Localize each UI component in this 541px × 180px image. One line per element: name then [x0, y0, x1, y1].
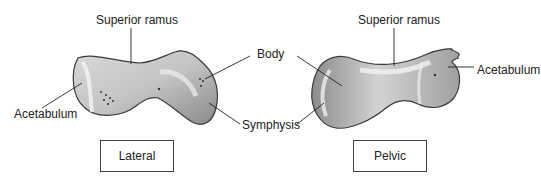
bone-lateral-view — [73, 51, 217, 124]
label-body: Body — [257, 47, 284, 61]
bone-outline-lateral — [73, 51, 217, 124]
caption-pelvic-text: Pelvic — [374, 149, 406, 163]
caption-pelvic: Pelvic — [353, 140, 427, 172]
label-superior-ramus-left: Superior ramus — [96, 13, 178, 27]
caption-lateral: Lateral — [100, 140, 174, 172]
label-acetabulum-right: Acetabulum — [477, 63, 540, 77]
label-acetabulum-left: Acetabulum — [14, 107, 77, 121]
bone-pelvic-view — [312, 48, 460, 128]
label-symphysis: Symphysis — [242, 118, 300, 132]
leader-body-left — [205, 56, 250, 79]
pubis-diagram — [0, 0, 541, 180]
caption-lateral-text: Lateral — [119, 149, 156, 163]
label-superior-ramus-right: Superior ramus — [358, 13, 440, 27]
bone-outline-pelvic — [312, 49, 460, 128]
